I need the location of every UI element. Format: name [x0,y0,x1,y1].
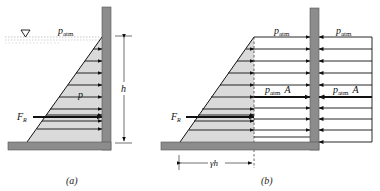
label-fr-a: FR [16,111,27,123]
left-atm-block [254,37,310,137]
base-a [8,142,111,150]
label-patm-left-top: patm [273,25,290,38]
label-fr-b: FR [170,111,181,123]
label-pressure-p: p [77,89,83,100]
wall-b [310,8,319,150]
label-patm-a-left: patmA [264,84,292,97]
figure-b: patm patm patmA patmA FR γh (b) [161,8,372,187]
base-b [161,142,319,150]
free-surface-icon [21,30,30,37]
figure-a: patm p FR h (a) [5,7,132,187]
label-patm-a: patm [57,25,74,38]
wall-a [102,7,111,150]
label-h: h [121,83,126,94]
caption-b: (b) [261,175,273,187]
caption-a: (a) [66,175,78,187]
label-patm-a-right: patmA [332,84,360,97]
label-gamma-h: γh [210,158,219,168]
hydrostatic-pressure-diagram: patm p FR h (a) [0,0,380,191]
label-patm-right-top: patm [335,25,352,38]
water-surface [5,37,102,43]
